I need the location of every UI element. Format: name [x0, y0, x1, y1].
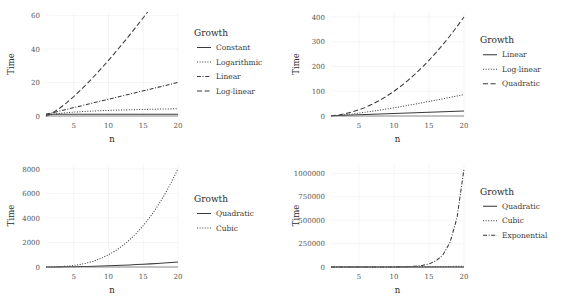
x-axis-title: n: [394, 285, 400, 295]
x-axis-ticks: 5101520: [356, 273, 468, 281]
x-tick-label-0: 5: [72, 273, 76, 281]
legend-item-log-linear[interactable]: Log-linear: [197, 87, 255, 96]
x-axis-ticks: 5101520: [72, 122, 183, 130]
x-tick-label-3: 20: [174, 273, 183, 281]
x-tick-label-1: 10: [104, 122, 113, 130]
y-tick-label-4: 1000000: [293, 170, 324, 178]
y-tick-label-1: 2000: [22, 239, 40, 247]
y-axis-ticks: 0204060: [31, 12, 40, 121]
y-tick-label-0: 0: [36, 264, 40, 272]
x-tick-label-0: 5: [72, 122, 76, 130]
chart-panel-bottom-right: 025000050000075000010000005101520nTimeGr…: [285, 152, 569, 303]
legend-label-exponential: Exponential: [502, 231, 548, 240]
gridlines: [46, 164, 178, 267]
legend-label-log-linear: Log-linear: [216, 87, 255, 96]
legend-title: Growth: [480, 35, 514, 45]
gridlines: [331, 164, 464, 267]
y-axis-title: Time: [6, 53, 16, 74]
plot-area: [331, 12, 464, 116]
series-curve-log-linear: [46, 12, 148, 116]
y-tick-label-2: 40: [31, 46, 40, 54]
gridlines: [46, 12, 178, 116]
x-axis-title: n: [109, 285, 115, 295]
y-tick-label-2: 200: [311, 63, 324, 71]
x-tick-label-2: 15: [139, 122, 148, 130]
legend-label-linear: Linear: [502, 50, 527, 59]
chart-svg-bottom-left: 020004000600080005101520nTimeGrowthQuadr…: [0, 152, 284, 303]
legend: GrowthQuadraticCubic: [194, 194, 254, 233]
legend-label-cubic: Cubic: [216, 224, 238, 233]
chart-panel-bottom-left: 020004000600080005101520nTimeGrowthQuadr…: [0, 152, 285, 303]
x-axis-title: n: [109, 134, 115, 144]
x-tick-label-0: 5: [356, 273, 360, 281]
y-axis-title: Time: [291, 205, 301, 226]
x-tick-label-2: 15: [424, 273, 433, 281]
plot-area: [46, 164, 178, 267]
y-tick-label-1: 100: [311, 88, 324, 96]
y-tick-label-0: 0: [320, 113, 324, 121]
y-tick-label-3: 750000: [298, 193, 325, 201]
legend-label-quadratic: Quadratic: [502, 202, 540, 211]
plot-area: [46, 12, 178, 116]
y-axis-title: Time: [291, 53, 301, 74]
y-tick-label-1: 20: [31, 79, 40, 87]
legend-label-linear: Linear: [216, 72, 241, 81]
legend-item-constant[interactable]: Constant: [197, 43, 250, 52]
chart-svg-top-right: 01002003004005101520nTimeGrowthLinearLog…: [285, 0, 569, 152]
legend-item-quadratic[interactable]: Quadratic: [483, 79, 540, 88]
legend-item-cubic[interactable]: Cubic: [483, 216, 524, 225]
x-tick-label-3: 20: [459, 273, 468, 281]
x-tick-label-3: 20: [459, 122, 468, 130]
legend-title: Growth: [194, 28, 228, 38]
y-tick-label-1: 250000: [298, 240, 325, 248]
y-tick-label-0: 0: [36, 113, 40, 121]
legend-item-linear[interactable]: Linear: [197, 72, 241, 81]
legend-title: Growth: [194, 194, 228, 204]
legend-label-logarithmic: Logarithmic: [216, 58, 262, 67]
legend-label-constant: Constant: [216, 43, 250, 52]
x-axis-ticks: 5101520: [356, 122, 468, 130]
gridlines: [331, 12, 464, 116]
legend-item-linear[interactable]: Linear: [483, 50, 527, 59]
legend: GrowthConstantLogarithmicLinearLog-linea…: [194, 28, 262, 96]
legend-item-exponential[interactable]: Exponential: [483, 231, 548, 240]
y-axis-ticks: 02000400060008000: [22, 166, 40, 272]
series-curves: [46, 12, 178, 116]
chart-panel-top-right: 01002003004005101520nTimeGrowthLinearLog…: [285, 0, 569, 152]
series-curve-linear: [331, 111, 464, 116]
y-tick-label-2: 500000: [298, 217, 325, 225]
figure-panel-grid: 02040605101520nTimeGrowthConstantLogarit…: [0, 0, 569, 303]
legend-label-quadratic: Quadratic: [502, 79, 540, 88]
legend-title: Growth: [480, 187, 514, 197]
y-tick-label-0: 0: [320, 264, 324, 272]
x-tick-label-1: 10: [104, 273, 113, 281]
legend-item-quadratic[interactable]: Quadratic: [483, 202, 540, 211]
y-tick-label-2: 4000: [22, 215, 40, 223]
y-tick-label-3: 300: [311, 38, 324, 46]
y-tick-label-3: 6000: [22, 190, 40, 198]
y-tick-label-4: 400: [311, 14, 324, 22]
legend-item-cubic[interactable]: Cubic: [197, 224, 238, 233]
chart-svg-bottom-right: 025000050000075000010000005101520nTimeGr…: [285, 152, 569, 303]
legend-item-log-linear[interactable]: Log-linear: [483, 65, 541, 74]
y-axis-title: Time: [6, 205, 16, 226]
series-curve-exponential: [331, 169, 464, 267]
x-tick-label-2: 15: [139, 273, 148, 281]
legend-label-log-linear: Log-linear: [502, 65, 541, 74]
y-tick-label-3: 60: [31, 12, 40, 20]
y-axis-ticks: 0100200300400: [311, 14, 324, 121]
legend-label-quadratic: Quadratic: [216, 209, 254, 218]
chart-panel-top-left: 02040605101520nTimeGrowthConstantLogarit…: [0, 0, 285, 152]
x-tick-label-0: 5: [356, 122, 360, 130]
x-tick-label-2: 15: [424, 122, 433, 130]
x-tick-label-1: 10: [389, 122, 398, 130]
legend: GrowthQuadraticCubicExponential: [480, 187, 548, 240]
series-curves: [331, 169, 464, 267]
x-tick-label-3: 20: [174, 122, 183, 130]
legend-item-logarithmic[interactable]: Logarithmic: [197, 58, 262, 67]
legend-label-cubic: Cubic: [502, 216, 524, 225]
y-tick-label-4: 8000: [22, 166, 40, 174]
legend-item-quadratic[interactable]: Quadratic: [197, 209, 254, 218]
x-axis-title: n: [394, 134, 400, 144]
plot-area: [331, 164, 464, 267]
